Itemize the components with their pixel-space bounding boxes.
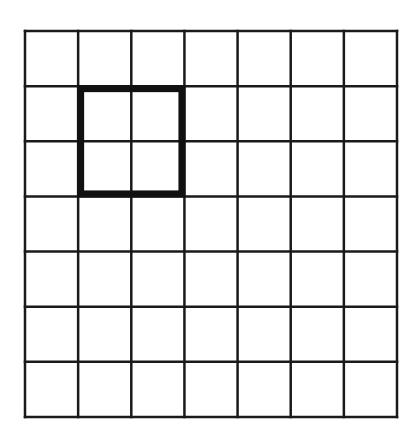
background: [0, 0, 413, 439]
grid-diagram: [0, 0, 413, 439]
